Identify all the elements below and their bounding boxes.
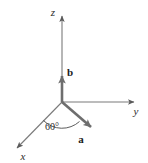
y-axis-label: y — [133, 105, 139, 117]
angle-label: 60° — [45, 121, 59, 132]
vector-b-label: b — [67, 66, 73, 78]
x-axis-label: x — [20, 150, 26, 162]
vector-a-line — [62, 102, 91, 127]
vector-a-label: a — [78, 133, 84, 145]
coordinate-axes-svg: z y x 60° b a — [0, 0, 148, 163]
z-axis-label: z — [50, 6, 56, 18]
vector-diagram-figure: z y x 60° b a — [0, 0, 148, 163]
